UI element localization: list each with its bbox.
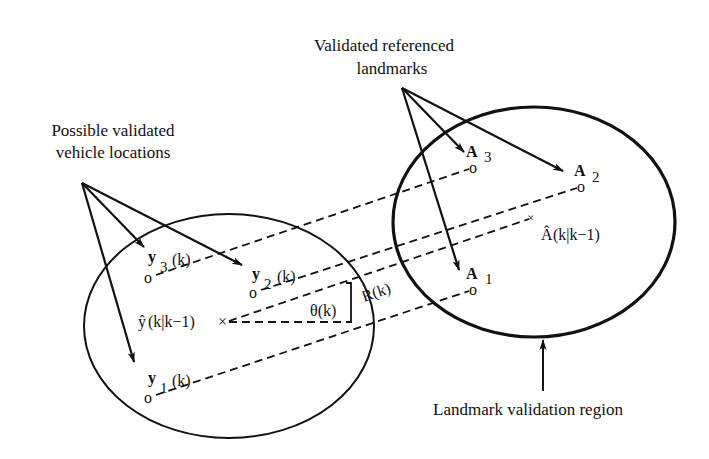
svg-text:(k): (k) bbox=[172, 251, 191, 269]
svg-text:Â: Â bbox=[541, 225, 553, 243]
svg-text:ŷ: ŷ bbox=[138, 313, 146, 331]
landmark-callout-title-line2: landmarks bbox=[357, 59, 428, 78]
svg-text:2: 2 bbox=[264, 276, 272, 292]
svg-text:3: 3 bbox=[484, 149, 492, 165]
svg-text:2: 2 bbox=[592, 169, 600, 185]
svg-text:A: A bbox=[466, 143, 478, 160]
range-label: R(k) bbox=[359, 279, 393, 306]
svg-text:A: A bbox=[574, 162, 586, 179]
marker-y3: o bbox=[144, 269, 152, 286]
svg-text:(k): (k) bbox=[172, 372, 191, 390]
marker-y1: o bbox=[144, 389, 152, 406]
marker-y2: o bbox=[249, 284, 257, 301]
marker-a3: o bbox=[469, 159, 477, 176]
marker-a2: o bbox=[577, 178, 585, 195]
bearing-bracket bbox=[346, 283, 351, 322]
validation-diagram: o o o × o o × o y 3 (k) y 2 (k) y 1 (k) … bbox=[0, 0, 709, 459]
label-y-estimate: ŷ (k|k−1) bbox=[138, 313, 195, 331]
vehicle-callout-title-line2: vehicle locations bbox=[56, 143, 171, 162]
svg-text:1: 1 bbox=[485, 271, 493, 287]
vehicle-callout-title-line1: Possible validated bbox=[51, 121, 175, 140]
marker-a-estimate: × bbox=[527, 210, 534, 225]
svg-text:1: 1 bbox=[160, 380, 168, 396]
bearing-label: θ(k) bbox=[310, 302, 336, 320]
marker-y-estimate: × bbox=[218, 313, 227, 330]
y3-to-a3-line bbox=[156, 169, 469, 275]
label-y2: y 2 (k) bbox=[252, 265, 296, 292]
svg-text:y: y bbox=[148, 248, 156, 266]
vehicle-validation-region bbox=[84, 214, 374, 438]
svg-text:A: A bbox=[466, 265, 478, 282]
arrow-to-y2 bbox=[82, 183, 242, 265]
svg-text:y: y bbox=[252, 265, 260, 283]
arrow-to-a2 bbox=[402, 88, 563, 171]
y2-to-a2-line bbox=[261, 188, 577, 290]
landmark-callout-title-line1: Validated referenced bbox=[314, 36, 455, 55]
svg-text:(k|k−1): (k|k−1) bbox=[553, 226, 600, 244]
label-a-estimate: Â (k|k−1) bbox=[541, 225, 600, 244]
arrow-to-a1 bbox=[402, 88, 459, 270]
svg-text:(k|k−1): (k|k−1) bbox=[148, 313, 195, 331]
svg-text:3: 3 bbox=[160, 259, 168, 275]
svg-text:y: y bbox=[148, 369, 156, 387]
label-y1: y 1 (k) bbox=[148, 369, 191, 396]
marker-a1: o bbox=[469, 281, 477, 298]
svg-text:(k): (k) bbox=[277, 268, 296, 286]
landmark-region-label: Landmark validation region bbox=[433, 400, 623, 419]
